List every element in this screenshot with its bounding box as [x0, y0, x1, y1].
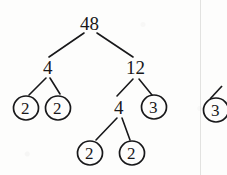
node-level2-right-12: 12: [126, 58, 145, 77]
node-level3-mid-4: 4: [114, 98, 124, 117]
node-leaf-d-2: 2: [85, 145, 94, 162]
figure-divider: [200, 0, 201, 175]
node-leaf-e-2: 2: [127, 145, 136, 162]
node-neighbor-partial-3: 3: [211, 102, 220, 119]
edge-left4-to-leafa: [29, 78, 46, 95]
edge-mid4-to-leafd: [96, 118, 117, 140]
edge-twelve-to-mid4: [117, 79, 133, 96]
node-leaf-a-2: 2: [21, 100, 30, 117]
edge-root-to-right: [97, 33, 133, 57]
edge-root-to-left: [49, 33, 84, 57]
edge-twelve-to-leafc: [139, 79, 152, 95]
node-leaf-b-2: 2: [53, 100, 62, 117]
factor-tree-figure: 48 4 12 2 2 4 3 2 2 3: [0, 0, 227, 175]
edge-neighbor-partial: [210, 86, 222, 99]
edge-left4-to-leafb: [50, 78, 60, 94]
edge-mid4-to-leafe: [122, 118, 130, 140]
node-root-48: 48: [80, 14, 99, 33]
node-leaf-c-3: 3: [149, 99, 158, 116]
tree-edges-and-circles: [0, 0, 227, 175]
node-level2-left-4: 4: [43, 58, 53, 77]
